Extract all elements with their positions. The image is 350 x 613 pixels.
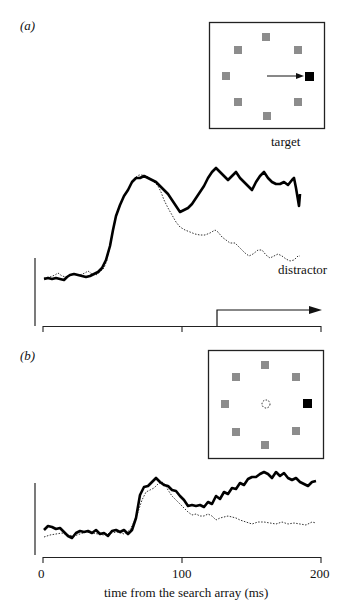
inset-b <box>209 351 324 459</box>
arrow-to-target-icon <box>296 73 304 79</box>
figure-graphics <box>0 0 350 613</box>
plot-b <box>35 472 321 563</box>
fixation-circle-icon <box>262 400 270 408</box>
target-square-a <box>305 72 314 81</box>
distractor-squares-b <box>221 361 300 449</box>
distractor-trace-b <box>44 482 316 537</box>
target-trace-b <box>44 472 316 538</box>
inset-a <box>210 23 325 129</box>
target-square-b <box>303 399 312 408</box>
plot-a <box>35 168 322 332</box>
distractor-trace-a <box>44 175 300 278</box>
saccade-arrow-icon <box>309 306 322 314</box>
target-trace-a <box>44 168 300 280</box>
